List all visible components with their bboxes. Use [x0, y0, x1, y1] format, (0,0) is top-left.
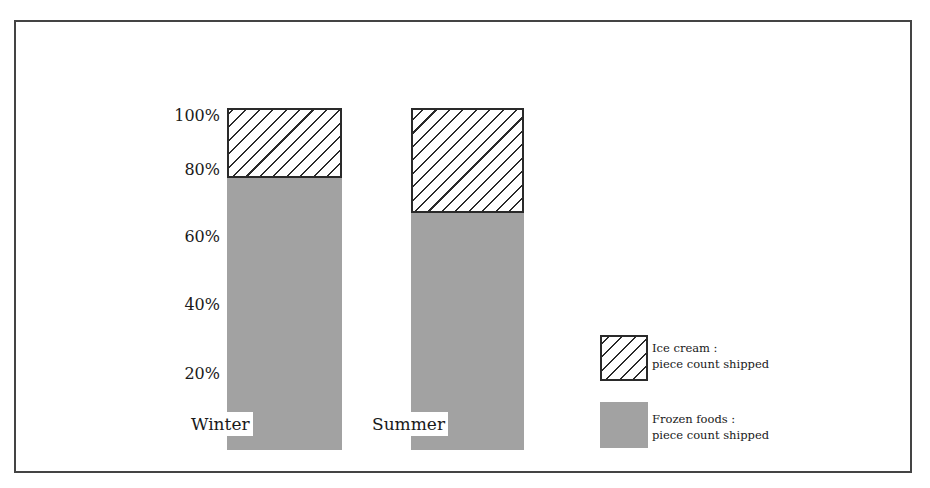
- bar-winter-ice-cream-segment: [227, 108, 342, 178]
- legend-frozen-foods-line2: piece count shipped: [652, 427, 769, 443]
- category-label-winter: Winter: [189, 412, 253, 436]
- bar-summer-ice-cream-segment: [411, 108, 524, 213]
- bar-winter: [227, 108, 342, 450]
- y-tick-100: 100%: [174, 107, 220, 125]
- y-tick-40: 40%: [184, 296, 220, 314]
- category-label-summer: Summer: [370, 412, 448, 436]
- legend-ice-cream-line1: Ice cream :: [652, 340, 769, 356]
- legend-ice-cream-swatch: [600, 335, 648, 381]
- legend-frozen-foods-label: Frozen foods : piece count shipped: [652, 411, 769, 443]
- bar-summer: [411, 108, 524, 450]
- legend-frozen-foods-swatch: [600, 402, 648, 448]
- legend-ice-cream-line2: piece count shipped: [652, 356, 769, 372]
- y-tick-80: 80%: [184, 161, 220, 179]
- bar-winter-frozen-foods-segment: [227, 176, 342, 450]
- legend-ice-cream-label: Ice cream : piece count shipped: [652, 340, 769, 372]
- y-tick-60: 60%: [184, 228, 220, 246]
- legend-frozen-foods-line1: Frozen foods :: [652, 411, 769, 427]
- y-tick-20: 20%: [184, 365, 220, 383]
